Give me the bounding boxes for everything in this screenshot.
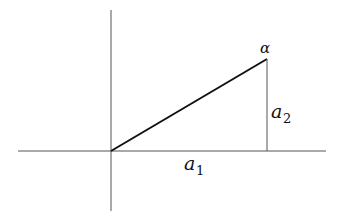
svg-text:2: 2 bbox=[283, 111, 291, 126]
vector-tip-label: α bbox=[260, 39, 270, 57]
svg-text:1: 1 bbox=[196, 163, 204, 178]
vertical-component-label: a 2 bbox=[271, 100, 291, 126]
svg-text:a: a bbox=[271, 100, 282, 122]
svg-text:a: a bbox=[184, 152, 195, 174]
horizontal-component-label: a 1 bbox=[184, 152, 204, 178]
vector-diagram: α a 2 a 1 bbox=[0, 0, 339, 215]
vector-alpha bbox=[111, 59, 267, 151]
